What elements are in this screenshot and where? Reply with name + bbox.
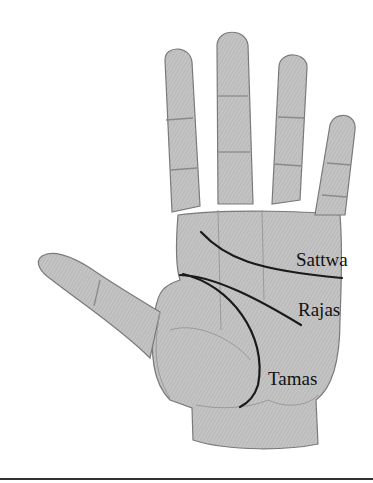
palm-diagram: Sattwa Rajas Tamas xyxy=(0,0,373,483)
sattwa-label: Sattwa xyxy=(296,249,348,270)
ring-finger xyxy=(272,55,307,204)
tamas-label: Tamas xyxy=(268,368,317,389)
bottom-rule-divider xyxy=(0,478,373,480)
middle-finger xyxy=(217,32,253,204)
palm-shape xyxy=(152,211,341,449)
thumb-shape xyxy=(38,253,160,358)
rajas-label: Rajas xyxy=(298,299,340,320)
index-finger xyxy=(165,49,200,212)
